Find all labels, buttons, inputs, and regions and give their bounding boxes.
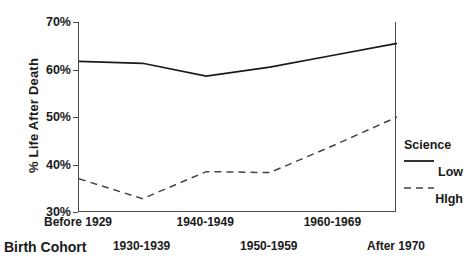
x-axis-title: Birth Cohort bbox=[4, 239, 86, 255]
plot-area bbox=[78, 22, 396, 212]
y-tick-label: 40% bbox=[11, 158, 71, 172]
x-tick-label: 1960-1969 bbox=[304, 215, 361, 229]
legend-entry-low: Low bbox=[404, 158, 467, 179]
x-tick-label: 1940-1949 bbox=[176, 215, 233, 229]
plot-lines bbox=[79, 22, 397, 212]
series-line-low bbox=[79, 43, 397, 76]
x-tick-label: Before 1929 bbox=[44, 215, 112, 229]
x-tick-label: 1930-1939 bbox=[113, 239, 170, 253]
legend-entry-high: HIgh bbox=[404, 185, 467, 206]
legend: Science Low HIgh bbox=[404, 138, 467, 206]
dashed-line-icon bbox=[404, 185, 434, 191]
series-line-high bbox=[79, 117, 397, 199]
chart-figure: % Life After Death 30%40%50%60%70% Befor… bbox=[0, 0, 467, 266]
y-tick-mark bbox=[73, 212, 78, 213]
y-tick-label: 50% bbox=[11, 110, 71, 124]
x-tick-label: After 1970 bbox=[367, 239, 425, 253]
y-tick-label: 60% bbox=[11, 63, 71, 77]
legend-label-high: HIgh bbox=[404, 192, 467, 206]
legend-title: Science bbox=[404, 138, 467, 152]
y-tick-label: 70% bbox=[11, 15, 71, 29]
x-tick-label: 1950-1959 bbox=[240, 239, 297, 253]
legend-label-low: Low bbox=[404, 165, 467, 179]
solid-line-icon bbox=[404, 158, 434, 164]
